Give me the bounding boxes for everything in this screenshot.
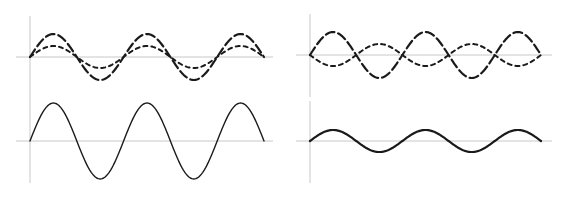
wave-interference-diagram: [0, 0, 566, 198]
panel-bottom-left: [16, 99, 273, 183]
panel-top-left: [16, 16, 273, 99]
panel-top-right: [296, 14, 552, 97]
panel-bottom-right: [296, 101, 552, 183]
